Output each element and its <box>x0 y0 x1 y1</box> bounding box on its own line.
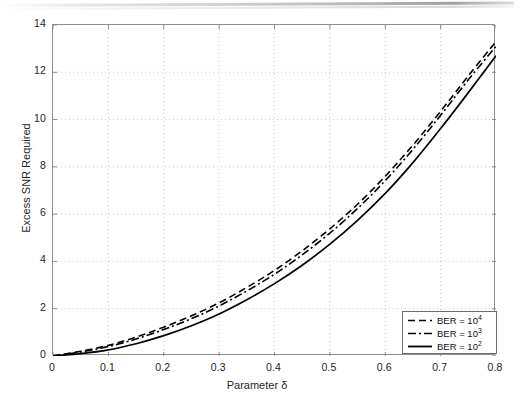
plot-area <box>52 24 495 355</box>
scan-artifact-streak <box>0 1 514 7</box>
x-tick-label: 0.7 <box>420 361 460 373</box>
gridlines <box>53 25 496 356</box>
x-axis-title: Parameter δ <box>0 379 514 391</box>
x-axis-title-symbol: δ <box>281 379 287 391</box>
legend-label: BER = 104 <box>437 316 482 326</box>
x-tick-label: 0.5 <box>309 361 349 373</box>
x-tick-label: 0.1 <box>87 361 127 373</box>
legend-entry-ber-1e4[interactable]: BER = 104 <box>403 314 496 327</box>
legend-label-exponent: 4 <box>478 314 482 321</box>
x-axis-title-text: Parameter <box>227 379 281 391</box>
legend-line-sample-dashdot <box>407 328 433 339</box>
x-tick-label: 0.6 <box>364 361 404 373</box>
legend-entry-ber-1e2[interactable]: BER = 102 <box>403 340 496 353</box>
y-tick-label: 0 <box>12 348 46 360</box>
y-tick-label: 12 <box>12 64 46 76</box>
y-tick-label: 14 <box>12 17 46 29</box>
y-tick-label: 2 <box>12 301 46 313</box>
legend-label-base: BER = 10 <box>437 341 478 352</box>
y-axis-title: Excess SNR Required <box>20 88 32 268</box>
x-tick-label: 0.4 <box>254 361 294 373</box>
figure-container: 02468101214 00.10.20.30.40.50.60.70.8 Pa… <box>0 0 514 406</box>
x-tick-label: 0.2 <box>143 361 183 373</box>
legend-label: BER = 102 <box>437 342 482 352</box>
axis-tick-marks <box>53 25 496 356</box>
legend-line-sample-dashed <box>407 315 433 326</box>
legend-label: BER = 103 <box>437 329 482 339</box>
chart-canvas <box>53 25 496 356</box>
x-tick-label: 0 <box>32 361 72 373</box>
legend-label-exponent: 3 <box>478 327 482 334</box>
legend-line-sample-solid <box>407 341 433 352</box>
scan-artifact-streak-secondary <box>0 5 514 10</box>
legend-label-base: BER = 10 <box>437 328 478 339</box>
legend-entry-ber-1e3[interactable]: BER = 103 <box>403 327 496 340</box>
legend-box: BER = 104BER = 103BER = 102 <box>402 311 497 354</box>
x-tick-label: 0.3 <box>198 361 238 373</box>
legend-label-exponent: 2 <box>478 340 482 347</box>
x-tick-label: 0.8 <box>475 361 514 373</box>
legend-label-base: BER = 10 <box>437 315 478 326</box>
